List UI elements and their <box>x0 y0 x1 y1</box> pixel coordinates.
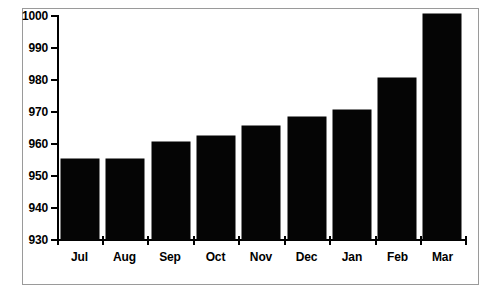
x-axis-tick <box>329 236 331 245</box>
x-axis-tick <box>465 236 467 245</box>
x-axis-label: Jul <box>57 250 102 264</box>
x-axis-label: Feb <box>375 250 420 264</box>
bar <box>242 126 280 240</box>
y-axis-tick-label: 980 <box>2 74 48 86</box>
x-axis-tick <box>57 236 59 245</box>
y-axis-tick-label: 970 <box>2 106 48 118</box>
y-axis-tick <box>51 47 59 49</box>
chart-figure: 1000 990 980 970 960 950 940 930 <box>0 0 498 298</box>
x-axis-tick <box>420 236 422 245</box>
y-axis-tick <box>51 15 59 17</box>
bar <box>197 136 235 240</box>
x-axis-tick <box>284 236 286 245</box>
y-axis-tick-label: 990 <box>2 42 48 54</box>
x-axis-label: Nov <box>238 250 284 264</box>
bar <box>423 14 461 240</box>
y-axis-tick <box>51 111 59 113</box>
bar <box>288 117 326 240</box>
y-axis-tick <box>51 175 59 177</box>
x-axis-label: Sep <box>147 250 193 264</box>
x-axis-label: Jan <box>329 250 375 264</box>
x-axis-tick <box>238 236 240 245</box>
plot-area: 1000 990 980 970 960 950 940 930 <box>0 0 498 298</box>
x-axis-label: Aug <box>102 250 147 264</box>
y-axis-tick-label: 960 <box>2 138 48 150</box>
bar <box>152 142 190 240</box>
x-axis-tick <box>147 236 149 245</box>
y-axis-tick-label: 940 <box>2 202 48 214</box>
y-axis-tick <box>51 79 59 81</box>
bar <box>61 159 99 240</box>
y-axis-tick-label: 930 <box>2 234 48 246</box>
y-axis-tick-label: 950 <box>2 170 48 182</box>
y-axis-tick <box>51 143 59 145</box>
x-axis-tick <box>375 236 377 245</box>
bar <box>333 110 371 240</box>
y-axis-tick <box>51 207 59 209</box>
x-axis-tick <box>102 236 104 245</box>
bar <box>378 78 416 240</box>
y-axis-tick-label: 1000 <box>2 10 48 22</box>
bar <box>106 159 144 240</box>
x-axis-label: Mar <box>420 250 465 264</box>
x-axis-label: Oct <box>193 250 238 264</box>
x-axis-label: Dec <box>284 250 329 264</box>
x-axis-tick <box>193 236 195 245</box>
